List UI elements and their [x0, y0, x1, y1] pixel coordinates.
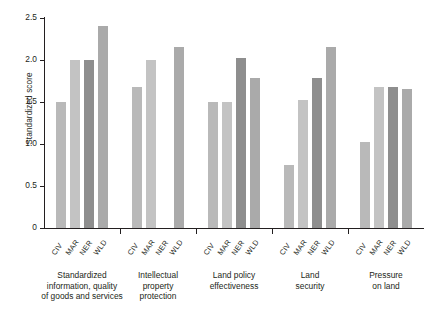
- y-axis-tick: 2.0: [0, 60, 44, 61]
- bar-civ: [208, 102, 218, 228]
- series-label-wld: WLD: [396, 238, 413, 257]
- series-label-civ: CIV: [202, 241, 217, 257]
- series-label-civ: CIV: [278, 241, 293, 257]
- series-label-wld: WLD: [168, 238, 185, 257]
- group-separator: [348, 229, 349, 234]
- series-label-ner: NER: [306, 239, 323, 257]
- bar-civ: [360, 142, 370, 228]
- series-label-ner: NER: [78, 239, 95, 257]
- bar-wld: [326, 47, 336, 228]
- bar-wld: [98, 26, 108, 228]
- group-separator: [196, 229, 197, 234]
- series-label-mar: MAR: [368, 238, 385, 257]
- y-axis-tick-mark: [40, 228, 44, 229]
- bar-wld: [250, 78, 260, 228]
- bar-ner: [388, 87, 398, 228]
- bar-mar: [374, 87, 384, 228]
- bar-ner: [312, 78, 322, 228]
- group-separator: [272, 229, 273, 234]
- y-axis-tick-label: 1.0: [25, 138, 37, 148]
- bar-civ: [56, 102, 66, 228]
- bar-mar: [298, 100, 308, 228]
- bar-mar: [222, 102, 232, 228]
- y-axis-title: Standardized score: [25, 29, 34, 189]
- y-axis-tick-label: 0: [32, 222, 37, 232]
- group-separator: [120, 229, 121, 234]
- series-label-mar: MAR: [64, 238, 81, 257]
- y-axis-tick-label: 2.0: [25, 54, 37, 64]
- plot-area: [44, 18, 424, 228]
- series-label-mar: MAR: [216, 238, 233, 257]
- y-axis-tick: 1.5: [0, 102, 44, 103]
- series-label-civ: CIV: [354, 241, 369, 257]
- bar-ner: [84, 60, 94, 228]
- y-axis-tick: 2.5: [0, 18, 44, 19]
- bar-wld: [174, 47, 184, 228]
- series-label-wld: WLD: [92, 238, 109, 257]
- y-axis-tick: 0: [0, 228, 44, 229]
- series-label-wld: WLD: [244, 238, 261, 257]
- y-axis-tick-label: 2.5: [25, 12, 37, 22]
- series-label-ner: NER: [154, 239, 171, 257]
- y-axis-tick: 0.5: [0, 186, 44, 187]
- group-caption-line: Pressure: [340, 270, 428, 281]
- bar-mar: [70, 60, 80, 228]
- y-axis-tick-label: 0.5: [25, 180, 37, 190]
- bar-civ: [284, 165, 294, 228]
- y-axis-tick-label: 1.5: [25, 96, 37, 106]
- group-caption-line: on land: [340, 281, 428, 292]
- bar-mar: [146, 60, 156, 228]
- y-axis-tick: 1.0: [0, 144, 44, 145]
- series-label-ner: NER: [382, 239, 399, 257]
- bar-ner: [236, 58, 246, 228]
- bar-wld: [402, 89, 412, 228]
- series-label-mar: MAR: [292, 238, 309, 257]
- series-label-civ: CIV: [126, 241, 141, 257]
- group-caption-line: protection: [112, 291, 204, 302]
- bar-chart-figure: Standardized score 00.51.01.52.02.5 CIVM…: [0, 0, 428, 317]
- series-label-civ: CIV: [50, 241, 65, 257]
- x-axis-line: [44, 228, 424, 229]
- series-label-ner: NER: [230, 239, 247, 257]
- series-label-wld: WLD: [320, 238, 337, 257]
- group-caption: Pressureon land: [340, 270, 428, 291]
- series-label-mar: MAR: [140, 238, 157, 257]
- bar-civ: [132, 87, 142, 228]
